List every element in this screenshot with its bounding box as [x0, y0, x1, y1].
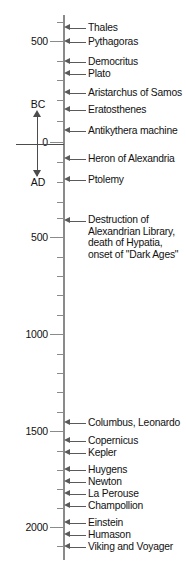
- axis-tick-major: [50, 237, 64, 238]
- timeline-event: Eratosthenes: [0, 104, 186, 116]
- axis-tick-minor: [57, 295, 64, 296]
- event-label: Champollion: [88, 500, 143, 512]
- event-label: Viking and Voyager: [88, 541, 173, 553]
- leader-line: [70, 93, 86, 94]
- leader-line: [70, 131, 86, 132]
- timeline-event: Aristarchus of Samos: [0, 87, 186, 99]
- timeline-event: La Perouse: [0, 488, 186, 500]
- timeline-event: Copernicus: [0, 435, 186, 447]
- leader-line: [70, 453, 86, 454]
- timeline-event: Thales: [0, 22, 186, 34]
- leader-line: [70, 535, 86, 536]
- event-label: Kepler: [88, 447, 117, 459]
- axis-tick-minor: [57, 80, 64, 81]
- leader-line: [70, 470, 86, 471]
- event-label: Columbus, Leonardo: [88, 417, 180, 429]
- event-label: Plato: [88, 68, 110, 80]
- axis-tick-minor: [57, 315, 64, 316]
- event-label: Copernicus: [88, 435, 138, 447]
- axis-tick-label: 1000: [0, 328, 48, 340]
- axis-tick-major: [50, 334, 64, 335]
- event-label: Pythagoras: [88, 36, 138, 48]
- leader-line: [70, 74, 86, 75]
- event-label: Ptolemy: [88, 174, 124, 186]
- event-label: Eratosthenes: [88, 104, 146, 116]
- timeline-event: Ptolemy: [0, 174, 186, 186]
- axis-tick-minor: [57, 412, 64, 413]
- timeline-event: Pythagoras: [0, 36, 186, 48]
- timeline-event: Einstein: [0, 517, 186, 529]
- timeline-event: Democritus: [0, 56, 186, 68]
- leader-line: [70, 441, 86, 442]
- timeline-event: Heron of Alexandria: [0, 153, 186, 165]
- axis-tick-label: 500: [0, 231, 48, 243]
- axis-tick-minor: [57, 202, 64, 203]
- axis-tick-minor: [57, 257, 64, 258]
- event-label: Aristarchus of Samos: [88, 87, 182, 99]
- leader-line: [70, 159, 86, 160]
- leader-line: [70, 42, 86, 43]
- timeline-event: Humason: [0, 529, 186, 541]
- leader-line: [70, 494, 86, 495]
- era-crossbar: [16, 144, 64, 145]
- timeline-event: Destruction of Alexandrian Library, deat…: [0, 215, 186, 227]
- axis-tick-major: [50, 431, 64, 432]
- leader-line: [70, 221, 86, 222]
- leader-line: [70, 523, 86, 524]
- axis-tick-minor: [57, 392, 64, 393]
- leader-line: [70, 62, 86, 63]
- event-label: Humason: [88, 529, 131, 541]
- leader-line: [70, 28, 86, 29]
- timeline-event: Kepler: [0, 447, 186, 459]
- event-label: Antikythera machine: [88, 125, 178, 137]
- event-label: Destruction of Alexandrian Library, deat…: [88, 214, 180, 260]
- timeline-event: Plato: [0, 68, 186, 80]
- event-label: Thales: [88, 22, 118, 34]
- timeline-event: Huygens: [0, 464, 186, 476]
- axis-tick-minor: [57, 373, 64, 374]
- timeline-event: Columbus, Leonardo: [0, 417, 186, 429]
- event-label: Democritus: [88, 56, 138, 68]
- timeline-event: Champollion: [0, 500, 186, 512]
- leader-line: [70, 423, 86, 424]
- timeline-event: Newton: [0, 476, 186, 488]
- timeline-event: Antikythera machine: [0, 125, 186, 137]
- event-label: Einstein: [88, 517, 123, 529]
- timeline-event: Viking and Voyager: [0, 541, 186, 553]
- leader-line: [70, 180, 86, 181]
- axis-tick-minor: [57, 354, 64, 355]
- event-label: La Perouse: [88, 488, 139, 500]
- axis-tick-minor: [57, 276, 64, 277]
- leader-line: [70, 110, 86, 111]
- event-label: Huygens: [88, 464, 127, 476]
- leader-line: [70, 506, 86, 507]
- leader-line: [70, 482, 86, 483]
- leader-line: [70, 547, 86, 548]
- event-label: Newton: [88, 476, 122, 488]
- timeline-figure: 5000500100015002000 BC AD ThalesPythagor…: [0, 0, 186, 572]
- event-label: Heron of Alexandria: [88, 153, 175, 165]
